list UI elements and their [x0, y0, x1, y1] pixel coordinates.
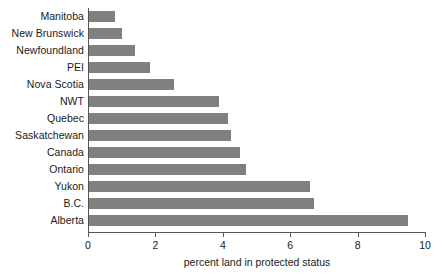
bar-fill	[88, 79, 174, 90]
y-axis-label: PEI	[0, 62, 84, 73]
x-tick-label: 10	[419, 239, 431, 251]
bar-fill	[88, 181, 310, 192]
y-axis-label: Quebec	[0, 113, 84, 124]
x-tick-mark	[290, 233, 291, 237]
x-tick-mark	[358, 233, 359, 237]
bar-fill	[88, 45, 135, 56]
y-axis-category-labels: ManitobaNew BrunswickNewfoundlandPEINova…	[0, 8, 84, 230]
x-tick-mark	[425, 233, 426, 237]
x-tick-mark	[88, 233, 89, 237]
y-axis-label: Manitoba	[0, 11, 84, 22]
bar-saskatchewan	[88, 130, 231, 141]
y-axis-label: Yukon	[0, 181, 84, 192]
x-axis-title: percent land in protected status	[88, 256, 426, 268]
bar-fill	[88, 113, 228, 124]
bar-fill	[88, 11, 115, 22]
bar-fill	[88, 130, 231, 141]
bar-ontario	[88, 164, 246, 175]
y-axis-label: Newfoundland	[0, 45, 84, 56]
bar-fill	[88, 28, 122, 39]
bar-newfoundland	[88, 45, 135, 56]
bar-canada	[88, 147, 240, 158]
x-axis-line	[88, 232, 426, 233]
bar-quebec	[88, 113, 228, 124]
bar-fill	[88, 62, 150, 73]
y-axis-label: Ontario	[0, 164, 84, 175]
x-tick-label: 2	[152, 239, 158, 251]
x-tick-label: 4	[220, 239, 226, 251]
bar-yukon	[88, 181, 310, 192]
bar-fill	[88, 198, 314, 209]
y-axis-label: Saskatchewan	[0, 130, 84, 141]
bar-nova-scotia	[88, 79, 174, 90]
bar-alberta	[88, 215, 408, 226]
y-axis-label: Canada	[0, 147, 84, 158]
y-axis-line	[88, 8, 89, 232]
bar-chart: ManitobaNew BrunswickNewfoundlandPEINova…	[0, 0, 442, 276]
x-tick-label: 8	[355, 239, 361, 251]
x-tick-label: 6	[287, 239, 293, 251]
y-axis-label: Nova Scotia	[0, 79, 84, 90]
bar-new-brunswick	[88, 28, 122, 39]
plot-area	[88, 8, 425, 232]
y-axis-label: NWT	[0, 96, 84, 107]
y-axis-label: Alberta	[0, 215, 84, 226]
bar-fill	[88, 215, 408, 226]
bar-b-c	[88, 198, 314, 209]
bar-manitoba	[88, 11, 115, 22]
bar-fill	[88, 96, 219, 107]
y-axis-label: B.C.	[0, 198, 84, 209]
bar-nwt	[88, 96, 219, 107]
x-tick-mark	[223, 233, 224, 237]
bar-fill	[88, 164, 246, 175]
y-axis-label: New Brunswick	[0, 28, 84, 39]
x-tick-label: 0	[85, 239, 91, 251]
bar-fill	[88, 147, 240, 158]
bar-pei	[88, 62, 150, 73]
x-tick-mark	[155, 233, 156, 237]
